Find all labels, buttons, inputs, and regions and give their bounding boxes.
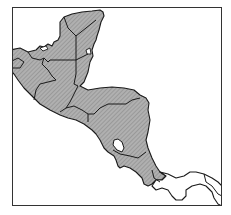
range-map	[0, 0, 231, 215]
shaded-range	[10, 10, 166, 186]
map-svg	[0, 0, 231, 215]
